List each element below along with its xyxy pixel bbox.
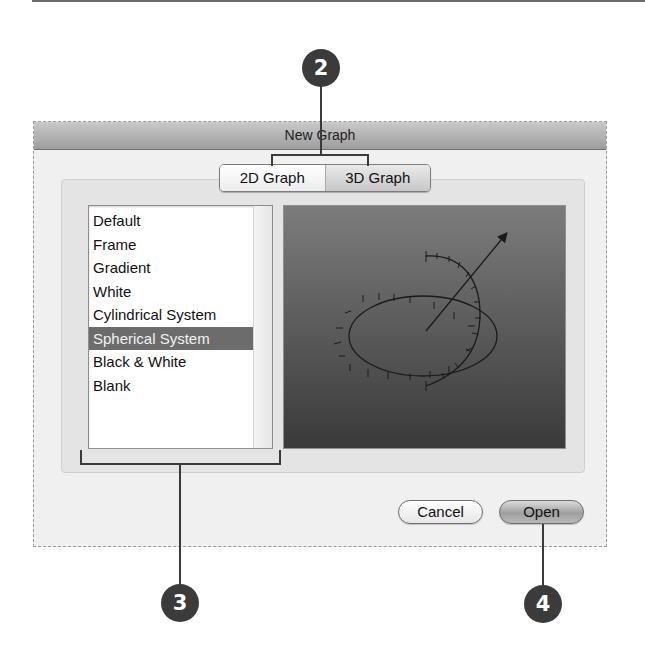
- callout-2-bracket-left: [271, 154, 273, 166]
- list-item-gradient[interactable]: Gradient: [89, 256, 255, 280]
- callout-2-bracket: [271, 154, 369, 156]
- callout-4-stem: [542, 524, 544, 588]
- open-button[interactable]: Open: [499, 500, 584, 524]
- page-rule: [32, 0, 645, 2]
- template-list[interactable]: Default Frame Gradient White Cylindrical…: [88, 205, 273, 449]
- new-graph-dialog: New Graph 2D Graph 3D Graph Default Fram…: [33, 121, 607, 547]
- template-list-items: Default Frame Gradient White Cylindrical…: [89, 209, 255, 397]
- list-item-spherical-system[interactable]: Spherical System: [89, 327, 255, 351]
- callout-2-stem: [320, 86, 322, 155]
- callout-3-stem: [179, 463, 181, 588]
- list-item-cylindrical-system[interactable]: Cylindrical System: [89, 303, 255, 327]
- callout-2-bracket-right: [367, 154, 369, 166]
- list-item-black-white[interactable]: Black & White: [89, 350, 255, 374]
- callout-3-bracket-right: [279, 450, 281, 464]
- cancel-button[interactable]: Cancel: [398, 500, 483, 524]
- graph-type-segmented-control: 2D Graph 3D Graph: [219, 164, 431, 192]
- spherical-system-graphic: [284, 206, 567, 450]
- template-preview: [283, 205, 566, 449]
- tab-2d-graph[interactable]: 2D Graph: [220, 165, 326, 191]
- list-scrollbar[interactable]: [253, 206, 272, 448]
- callout-3-badge: 3: [161, 584, 199, 622]
- list-item-white[interactable]: White: [89, 280, 255, 304]
- callout-4-badge: 4: [524, 585, 562, 623]
- tab-3d-graph[interactable]: 3D Graph: [326, 165, 431, 191]
- callout-3-bracket-left: [80, 450, 82, 464]
- callout-2-badge: 2: [302, 49, 340, 87]
- list-item-default[interactable]: Default: [89, 209, 255, 233]
- list-item-frame[interactable]: Frame: [89, 233, 255, 257]
- list-item-blank[interactable]: Blank: [89, 374, 255, 398]
- screenshot-stage: New Graph 2D Graph 3D Graph Default Fram…: [0, 0, 645, 664]
